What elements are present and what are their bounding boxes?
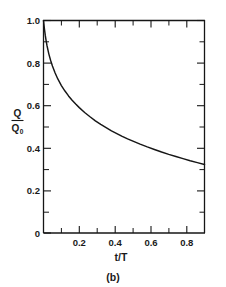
plot-frame <box>44 20 206 233</box>
figure-panel: 1.0 0.8 0.6 0.4 0.2 0 0.2 0.4 0.6 0.8 Q … <box>0 0 226 287</box>
x-tick-labels: 0.2 0.4 0.6 0.8 <box>73 237 194 248</box>
x-tick-label: 0.6 <box>144 237 157 248</box>
x-tick-label: 0.2 <box>73 237 86 248</box>
x-axis-ticks-top <box>61 21 186 28</box>
y-tick-label: 0 <box>35 228 40 239</box>
y-axis-ticks <box>44 21 52 234</box>
y-tick-labels: 1.0 0.8 0.6 0.4 0.2 0 <box>27 15 41 239</box>
y-axis-title-denominator-subscript: 0 <box>20 128 24 135</box>
x-tick-label: 0.8 <box>180 237 193 248</box>
y-axis-title: Q Q 0 <box>12 108 24 135</box>
x-axis-ticks <box>61 226 186 233</box>
y-axis-title-denominator: Q <box>12 123 20 134</box>
y-tick-label: 0.8 <box>27 58 40 69</box>
y-tick-label: 1.0 <box>27 15 40 26</box>
chart-svg: 1.0 0.8 0.6 0.4 0.2 0 0.2 0.4 0.6 0.8 Q … <box>0 0 226 287</box>
figure-caption: (b) <box>106 271 119 283</box>
y-axis-ticks-right <box>197 21 205 213</box>
x-axis-title: t/T <box>115 251 128 263</box>
y-tick-label: 0.6 <box>27 100 40 111</box>
y-axis-title-numerator: Q <box>14 108 22 119</box>
y-tick-label: 0.2 <box>27 185 40 196</box>
data-curve-series-0 <box>44 21 205 165</box>
x-tick-label: 0.4 <box>109 237 123 248</box>
y-tick-label: 0.4 <box>27 143 41 154</box>
